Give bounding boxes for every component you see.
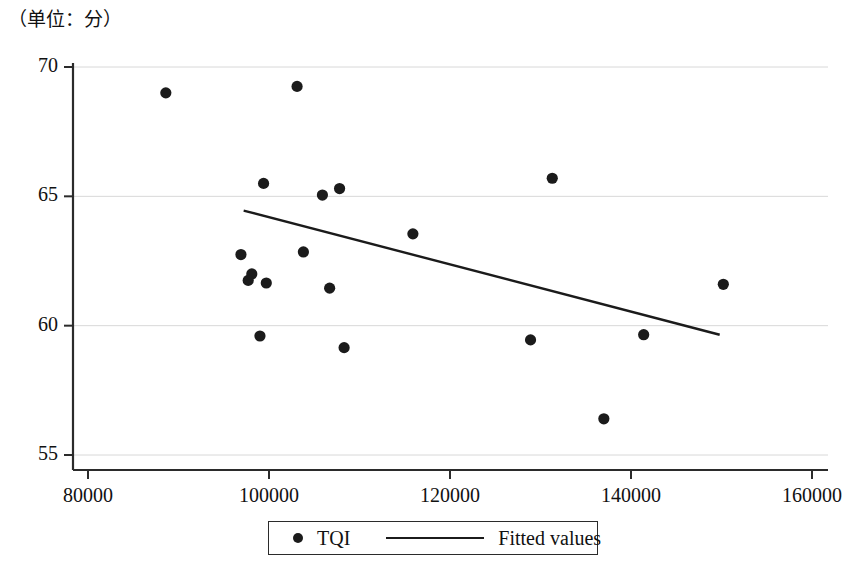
fitted-values-line bbox=[244, 211, 720, 335]
x-tick-label: 80000 bbox=[28, 484, 148, 507]
legend-label-tqi: TQI bbox=[317, 527, 350, 550]
scatter-chart: （单位：分） 55606570 800001000001200001400001… bbox=[0, 0, 856, 586]
legend-dot-marker-icon bbox=[293, 533, 303, 543]
tqi-data-points bbox=[160, 81, 729, 425]
x-tick-label: 160000 bbox=[752, 484, 856, 507]
legend-entry-tqi: TQI bbox=[269, 522, 350, 554]
y-tick-label: 65 bbox=[6, 183, 58, 206]
tick-marks bbox=[64, 67, 812, 479]
x-tick-label: 100000 bbox=[209, 484, 329, 507]
legend-entry-fitted-values: Fitted values bbox=[350, 522, 601, 554]
legend-line-marker-icon bbox=[386, 537, 484, 539]
y-tick-label: 70 bbox=[6, 54, 58, 77]
legend-label-fitted-values: Fitted values bbox=[498, 527, 601, 550]
gridlines bbox=[73, 67, 828, 455]
x-tick-label: 120000 bbox=[390, 484, 510, 507]
x-tick-label: 140000 bbox=[571, 484, 691, 507]
chart-legend: TQI Fitted values bbox=[268, 521, 598, 555]
y-tick-label: 55 bbox=[6, 442, 58, 465]
y-tick-label: 60 bbox=[6, 313, 58, 336]
axis-lines bbox=[73, 63, 828, 470]
